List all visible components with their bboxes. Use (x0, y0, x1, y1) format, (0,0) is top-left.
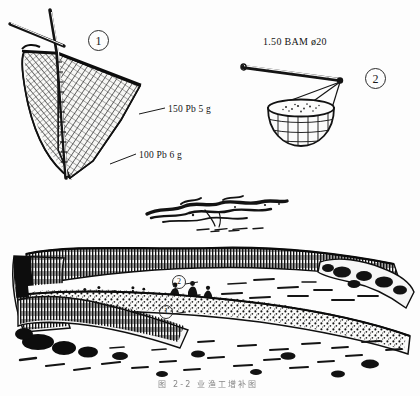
leader-line-lower (110, 154, 136, 164)
figure-2-hanging-basket (240, 48, 400, 163)
dip-net-drawing (0, 0, 200, 190)
leader-line-upper (139, 108, 165, 114)
drawing-page: 1 150 Pb 5 g 100 Pb 6 g (0, 0, 420, 396)
basket-body (264, 100, 338, 149)
scene-marker-1: 1 (159, 305, 173, 319)
figure-marker-2: 2 (365, 68, 386, 89)
label-pole-dimension-spec: 1.50 BAM ø20 (263, 36, 327, 47)
scene-foreground-rocks (112, 350, 379, 377)
figure-marker-1: 1 (88, 30, 109, 51)
beach-scene-drawing (2, 238, 418, 378)
label-mesh-lower-spec: 100 Pb 6 g (139, 150, 182, 160)
shoreline-vignette-drawing (135, 190, 300, 235)
basket-rim (268, 100, 334, 117)
hanging-basket-drawing (240, 48, 400, 163)
scene-foreground-scatter (20, 341, 402, 370)
scene-boulders (15, 328, 98, 358)
figure-4-beach-scene (2, 238, 418, 378)
label-mesh-upper-spec: 150 Pb 5 g (168, 104, 211, 114)
carrying-pole (241, 64, 340, 80)
figure-3-shoreline-vignette (135, 190, 300, 235)
scene-marker-2: 2 (172, 275, 186, 289)
vignette-waterline (197, 228, 263, 232)
figure-1-dip-net (0, 0, 200, 190)
figure-caption: 图 2-2 业渔工增补图 (158, 378, 259, 389)
